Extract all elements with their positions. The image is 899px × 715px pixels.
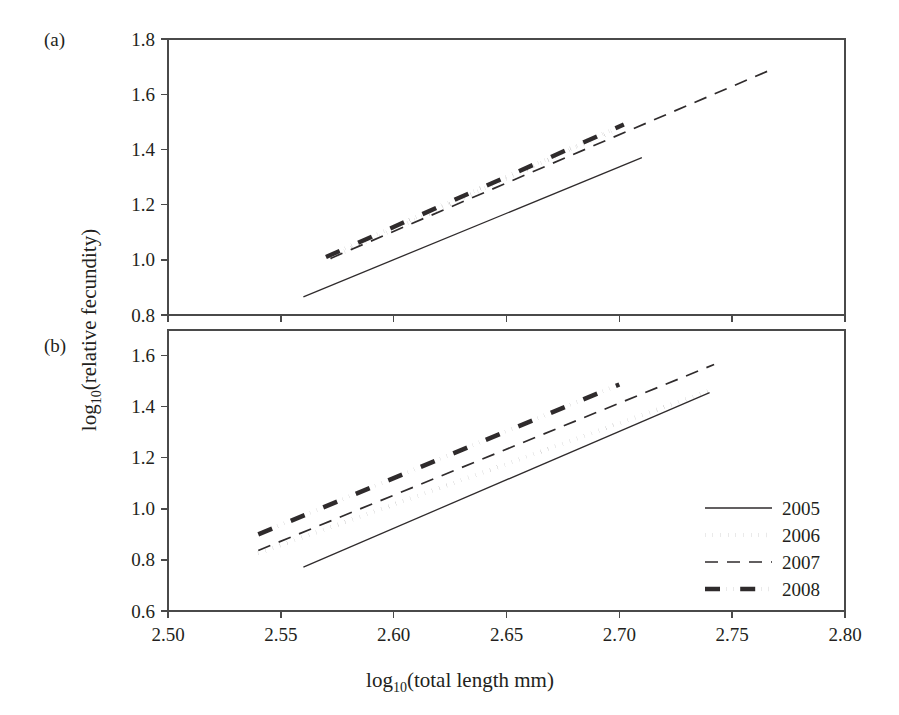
y-axis-title-log: log xyxy=(77,404,101,431)
x-tick-label-5: 2.75 xyxy=(716,624,749,645)
y-tick-label-panel-a-5: 1.8 xyxy=(131,29,155,50)
x-axis-title-log: log xyxy=(366,668,393,692)
series-line-panel-a-2006 xyxy=(330,128,619,258)
series-line-panel-a-2007 xyxy=(330,70,770,259)
series-line-panel-a-2005 xyxy=(303,158,642,297)
plot-panel-panel-b: 0.60.81.01.21.41.62.502.552.602.652.702.… xyxy=(131,330,861,645)
y-tick-label-panel-b-3: 1.2 xyxy=(131,447,155,468)
series-line-panel-b-2008 xyxy=(258,384,619,534)
x-axis-title-rest: (total length mm) xyxy=(407,668,554,692)
panel-label-a: (a) xyxy=(44,29,65,51)
figure-container: 0.81.01.21.41.61.80.60.81.01.21.41.62.50… xyxy=(0,0,899,715)
x-axis-title-subscript: 10 xyxy=(393,680,407,695)
x-tick-label-0: 2.50 xyxy=(151,624,184,645)
x-tick-label-1: 2.55 xyxy=(264,624,297,645)
legend-label-2008: 2008 xyxy=(782,579,820,600)
y-axis-title-rest: (relative fecundity) xyxy=(77,229,101,391)
y-tick-label-panel-b-4: 1.4 xyxy=(131,396,155,417)
plot-frame-panel-b xyxy=(168,330,845,611)
y-tick-label-panel-b-2: 1.0 xyxy=(131,498,155,519)
y-tick-label-panel-a-2: 1.2 xyxy=(131,194,155,215)
y-axis-title-subscript: 10 xyxy=(89,390,104,404)
legend-label-2006: 2006 xyxy=(782,525,820,546)
y-tick-label-panel-a-1: 1.0 xyxy=(131,249,155,270)
legend: 2005200620072008 xyxy=(705,498,820,600)
plot-panel-panel-a: 0.81.01.21.41.61.8 xyxy=(131,29,845,326)
legend-label-2007: 2007 xyxy=(782,552,820,573)
y-tick-label-panel-b-5: 1.6 xyxy=(131,345,155,366)
x-tick-label-2: 2.60 xyxy=(377,624,410,645)
x-axis-title: log10(total length mm) xyxy=(366,668,554,695)
legend-label-2005: 2005 xyxy=(782,498,820,519)
chart-svg: 0.81.01.21.41.61.80.60.81.01.21.41.62.50… xyxy=(0,0,899,715)
x-tick-label-6: 2.80 xyxy=(828,624,861,645)
y-tick-label-panel-a-3: 1.4 xyxy=(131,139,155,160)
x-tick-label-4: 2.70 xyxy=(603,624,636,645)
y-tick-label-panel-b-1: 0.8 xyxy=(131,549,155,570)
y-tick-label-panel-a-0: 0.8 xyxy=(131,305,155,326)
panel-label-b: (b) xyxy=(44,335,66,357)
series-line-panel-b-2007 xyxy=(258,364,714,550)
y-tick-label-panel-a-4: 1.6 xyxy=(131,84,155,105)
y-axis-title: log10(relative fecundity) xyxy=(77,229,104,431)
plot-frame-panel-a xyxy=(168,39,845,315)
series-line-panel-a-2008 xyxy=(326,125,624,257)
series-line-panel-b-2005 xyxy=(303,393,709,567)
y-tick-label-panel-b-0: 0.6 xyxy=(131,601,155,622)
series-line-panel-b-2006 xyxy=(258,391,709,553)
x-tick-label-3: 2.65 xyxy=(490,624,523,645)
